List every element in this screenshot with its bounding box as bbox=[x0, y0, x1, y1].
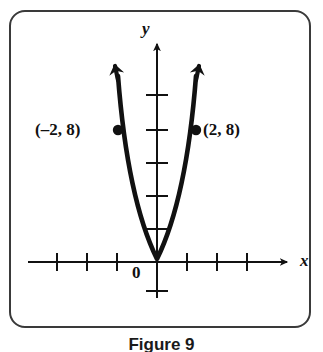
y-axis-label: y bbox=[142, 20, 150, 37]
x-axis-label: x bbox=[300, 252, 309, 269]
point-label-right: (2, 8) bbox=[203, 121, 240, 138]
figure-container: y x 0 (–2, 8) (2, 8) Figure 9 bbox=[0, 0, 323, 352]
point-label-left: (–2, 8) bbox=[35, 121, 80, 138]
point-marker-right bbox=[191, 125, 201, 135]
figure-caption: Figure 9 bbox=[0, 336, 323, 352]
point-marker-left bbox=[113, 125, 123, 135]
graph-canvas bbox=[0, 0, 323, 352]
origin-label: 0 bbox=[132, 264, 141, 281]
